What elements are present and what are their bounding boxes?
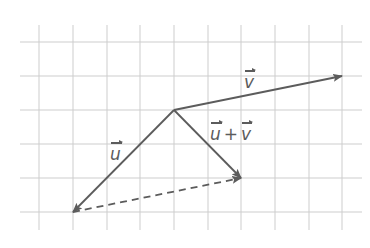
- vector-arrow-v: [174, 76, 342, 110]
- vector-arrow-u: [73, 110, 174, 212]
- diagram-svg: [0, 0, 370, 248]
- sum-v-label: v: [241, 126, 251, 143]
- vector-v-label: v: [244, 74, 254, 91]
- vector-arrow-translated-v: [73, 178, 241, 212]
- vector-addition-diagram: v u u+v: [0, 0, 370, 248]
- label-v: v: [244, 74, 254, 91]
- sum-u-label: u: [210, 126, 221, 143]
- label-u-plus-v: u+v: [210, 126, 251, 143]
- vector-u-label: u: [110, 146, 121, 163]
- label-u: u: [110, 146, 121, 163]
- plus-sign: +: [224, 124, 238, 144]
